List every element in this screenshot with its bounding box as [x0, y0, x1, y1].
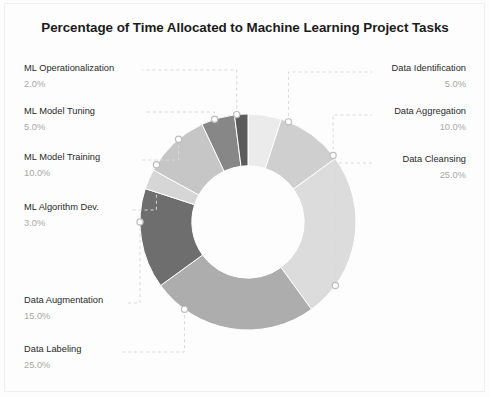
chart-page: Percentage of Time Allocated to Machine …: [0, 0, 490, 397]
label-ml-model-tuning: ML Model Tuning 5.0%: [24, 107, 164, 133]
label-ml-operationalization: ML Operationalization 2.0%: [24, 64, 164, 90]
label-name: ML Operationalization: [24, 64, 164, 73]
label-percentage: 10.0%: [24, 169, 164, 178]
label-ml-algorithm-dev: ML Algorithm Dev. 3.0%: [24, 203, 164, 229]
donut-slices: [140, 114, 356, 330]
donut-chart: [0, 0, 490, 397]
label-name: Data Identification: [330, 64, 466, 73]
label-percentage: 10.0%: [330, 123, 466, 132]
leader-line: [128, 222, 140, 303]
leader-anchor-dot: [234, 111, 240, 117]
label-percentage: 3.0%: [24, 219, 164, 228]
label-percentage: 25.0%: [330, 171, 466, 180]
label-data-augmentation: Data Augmentation 15.0%: [24, 296, 164, 322]
label-data-cleansing: Data Cleansing 25.0%: [330, 155, 466, 181]
label-name: ML Model Training: [24, 153, 164, 162]
leader-anchor-dot: [212, 116, 218, 122]
label-name: ML Model Tuning: [24, 107, 164, 116]
leader-anchor-dot: [181, 306, 187, 312]
label-percentage: 25.0%: [24, 361, 164, 370]
label-name: ML Algorithm Dev.: [24, 203, 164, 212]
label-name: Data Labeling: [24, 345, 164, 354]
label-data-identification: Data Identification 5.0%: [330, 64, 466, 90]
label-ml-model-training: ML Model Training 10.0%: [24, 153, 164, 179]
label-name: Data Augmentation: [24, 296, 164, 305]
label-percentage: 5.0%: [24, 123, 164, 132]
label-percentage: 5.0%: [330, 80, 466, 89]
label-percentage: 15.0%: [24, 312, 164, 321]
label-data-labeling: Data Labeling 25.0%: [24, 345, 164, 371]
leader-anchor-dot: [175, 136, 181, 142]
leader-anchor-dot: [332, 282, 338, 288]
label-name: Data Aggregation: [330, 107, 466, 116]
label-data-aggregation: Data Aggregation 10.0%: [330, 107, 466, 133]
label-name: Data Cleansing: [330, 155, 466, 164]
label-percentage: 2.0%: [24, 80, 164, 89]
leader-anchor-dot: [285, 119, 291, 125]
